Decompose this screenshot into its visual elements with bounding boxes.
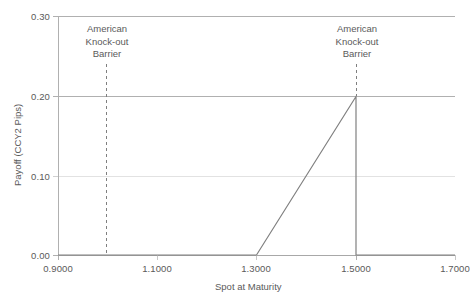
y-tick-label-020: 0.20 xyxy=(8,91,50,102)
chart-container: 0.30 0.20 0.10 0.00 0.9000 1.1000 1.3000… xyxy=(0,0,474,302)
x-tick-label-09000: 0.9000 xyxy=(23,263,93,274)
annotation-left-line-3: Barrier xyxy=(47,48,167,61)
annotation-left-barrier: American Knock-out Barrier xyxy=(47,23,167,61)
annotation-right-line-3: Barrier xyxy=(297,48,417,61)
annotation-left-line-1: American xyxy=(47,23,167,36)
x-tick-label-11000: 1.1000 xyxy=(122,263,192,274)
x-axis-title: Spot at Maturity xyxy=(215,281,282,292)
y-axis-title: Payoff (CCY2 Pips) xyxy=(12,104,23,186)
annotation-left-line-2: Knock-out xyxy=(47,36,167,49)
annotation-right-line-1: American xyxy=(297,23,417,36)
y-tick-label-000: 0.00 xyxy=(8,250,50,261)
x-tick-label-15000: 1.5000 xyxy=(321,263,391,274)
payoff-line xyxy=(58,97,455,256)
y-tick-label-030: 0.30 xyxy=(8,11,50,22)
annotation-right-barrier: American Knock-out Barrier xyxy=(297,23,417,61)
annotation-right-line-2: Knock-out xyxy=(297,36,417,49)
x-tick-label-17000: 1.7000 xyxy=(420,263,474,274)
x-tick-label-13000: 1.3000 xyxy=(221,263,291,274)
